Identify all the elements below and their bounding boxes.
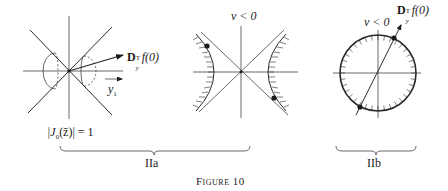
condition-J: |J <box>47 125 56 139</box>
panel-right-circle <box>333 25 421 118</box>
brace-IIa <box>60 146 250 155</box>
gradient-label-left: DTyf(0) <box>127 51 159 63</box>
label-f0: f(0) <box>142 50 159 64</box>
panel-left-cone <box>23 16 123 119</box>
point-left <box>204 43 209 48</box>
origin-point <box>67 69 70 72</box>
point-right <box>271 95 276 100</box>
gradient-label-right: DTyf(0) <box>397 4 429 16</box>
hyperbola-right-branch <box>268 34 286 111</box>
label-D: D <box>127 50 136 64</box>
figure-caption: Figure 10 <box>196 176 245 187</box>
right-region-label: v < 0 <box>364 16 389 28</box>
brace-label-IIb: IIb <box>367 157 381 169</box>
panel-middle-hyperbola <box>193 26 298 118</box>
label-D: D <box>397 3 406 17</box>
label-f0: f(0) <box>412 3 429 17</box>
y-sub-1: 1 <box>113 90 117 98</box>
figure-10: DTyf(0) y1 |J0(z̄)| = 1 v < 0 v < 0 DTyf… <box>0 0 448 191</box>
v-lt-0-middle: v < 0 <box>231 9 256 23</box>
brace-IIb <box>336 146 416 155</box>
cone-line-descending <box>30 30 112 115</box>
point-upper <box>391 35 396 40</box>
condition-rest: (z̄)| = 1 <box>59 125 94 139</box>
middle-region-label: v < 0 <box>231 10 256 22</box>
y1-label: y1 <box>108 83 117 95</box>
condition-label: |J0(z̄)| = 1 <box>47 126 94 138</box>
point-lower <box>357 104 362 109</box>
origin-point <box>240 71 243 74</box>
v-lt-0-right: v < 0 <box>364 15 389 29</box>
brace-label-IIa: IIa <box>145 157 158 169</box>
